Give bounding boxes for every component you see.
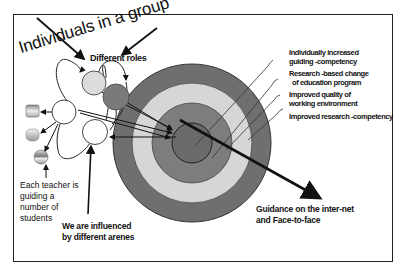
target-label-2: Research -based change of education prog… <box>289 70 369 87</box>
guidance-note-line2: and Face-to-face <box>256 215 354 226</box>
target-label-3-line2: working environment <box>289 100 357 109</box>
target-rings <box>113 64 271 222</box>
target-label-1-line2: guiding -competency <box>289 58 359 67</box>
node-individual-bottom <box>83 120 108 145</box>
student-nodes <box>26 105 48 164</box>
target-label-3: Improved quality of working environment <box>289 91 357 108</box>
student-links <box>41 112 58 178</box>
teacher-note-line2: guiding a <box>20 191 79 202</box>
node-individual-left <box>52 100 76 124</box>
teacher-note-line3: number of <box>20 202 79 213</box>
student-node-3 <box>34 150 48 164</box>
student-node-2 <box>26 129 39 141</box>
guidance-note-line1: Guidance on the inter-net <box>256 204 354 215</box>
target-label-1: Individually increased guiding -competen… <box>289 49 359 66</box>
node-role-dark <box>103 84 129 110</box>
target-label-4-line1: Improved research -competency <box>289 113 393 122</box>
arenas-note: We are influenced by different arenes <box>62 221 134 243</box>
arenas-note-line2: by different arenes <box>62 232 134 243</box>
target-label-4: Improved research -competency <box>289 113 393 122</box>
arenas-note-line1: We are influenced <box>62 221 134 232</box>
teacher-note-line1: Each teacher is <box>20 180 79 191</box>
guidance-note: Guidance on the inter-net and Face-to-fa… <box>256 204 354 226</box>
arenas-arrow <box>88 146 91 214</box>
target-bullseye <box>172 123 212 163</box>
node-role-light <box>82 71 106 95</box>
title-arrow-right <box>122 28 157 55</box>
student-node-1 <box>26 105 39 117</box>
target-label-2-line2: of education program <box>289 79 369 88</box>
roles-label: Different roles <box>90 53 147 63</box>
teacher-note: Each teacher is guiding a number of stud… <box>20 180 79 224</box>
